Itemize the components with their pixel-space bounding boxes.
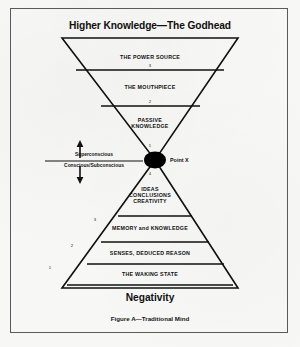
point-x-label: Point X [170, 157, 230, 163]
lower-band-number-4: 4 [0, 172, 300, 177]
lower-band-number-3: 3 [0, 218, 245, 223]
superconscious-label: Superconscious [40, 152, 148, 157]
lower-band-label-senses: SENSES, DEDUCED REASON [0, 251, 300, 257]
lower-band-label-memory: MEMORY and KNOWLEDGE [0, 226, 300, 232]
lower-band-number-2: 2 [0, 244, 222, 249]
upper-band-label-passive-knowledge: PASSIVE KNOWLEDGE [0, 118, 300, 130]
lower-band-label-waking-state: THE WAKING STATE [0, 272, 300, 278]
figure-a-traditional-mind: Higher Knowledge—The Godhead THE POWER S… [0, 0, 300, 347]
conscious-subconscious-label: Conscious/Subconscious [38, 163, 150, 168]
negativity-label: Negativity [0, 292, 300, 303]
lower-band-label-ideas: IDEAS CONCLUSIONS CREATIVITY [0, 187, 300, 205]
figure-caption: Figure A—Traditional Mind [0, 316, 300, 323]
figure-title: Higher Knowledge—The Godhead [0, 20, 300, 31]
upper-band-label-mouthpiece: THE MOUTHPIECE [0, 85, 300, 91]
upper-band-label-power-source: THE POWER SOURCE [0, 55, 300, 61]
lower-band-number-1: 1 [0, 266, 200, 271]
upper-band-number-3: 3 [0, 64, 300, 69]
upper-band-number-2: 2 [0, 100, 300, 105]
upper-band-number-1: 1 [0, 144, 300, 149]
